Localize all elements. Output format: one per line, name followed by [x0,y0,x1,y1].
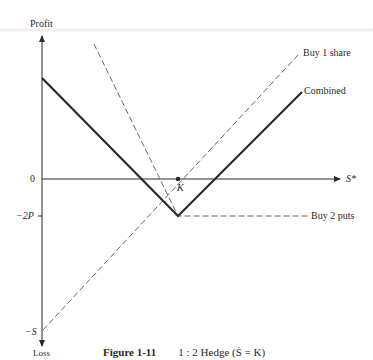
buy-puts-line [94,44,310,216]
y-tick-zero: 0 [30,174,35,184]
figure-caption: Figure 1-111 : 2 Hedge (Ṡ = K) [103,346,265,358]
figure-number: Figure 1-11 [103,346,156,358]
profit-label: Profit [30,19,53,29]
combined-label: Combined [304,86,346,96]
figure-title: 1 : 2 Hedge (Ṡ = K) [178,346,265,358]
strike-label: K [177,183,184,193]
buy-share-line [43,55,298,330]
combined-line [42,78,302,216]
strike-point [176,177,181,182]
buy-puts-label: Buy 2 puts [311,211,354,221]
loss-label: Loss [33,349,50,358]
y-tick-minus-2p: −2P [16,211,34,221]
y-axis [38,36,42,346]
buy-share-label: Buy 1 share [303,48,351,58]
x-axis-label: S* [346,174,356,184]
y-tick-minus-s: −S [25,327,37,337]
